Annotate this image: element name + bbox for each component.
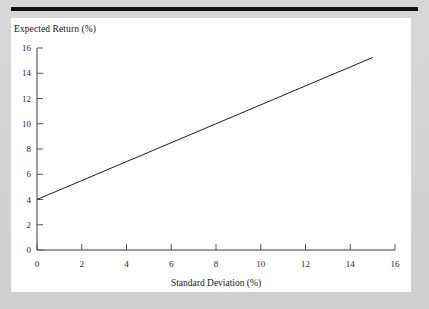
- x-tick-label: 12: [301, 259, 310, 269]
- figure-page: Expected Return (%): [0, 0, 429, 309]
- y-tick-label: 14: [22, 68, 32, 78]
- x-tick-label: 10: [256, 259, 266, 269]
- x-tick-label: 16: [391, 259, 401, 269]
- y-tick-label: 10: [22, 119, 32, 129]
- y-tick-labels: 0 2 4 6 8 10 12 14 16: [22, 43, 32, 255]
- axis-lines: [37, 48, 395, 250]
- y-tick-label: 6: [27, 169, 32, 179]
- x-tick-label: 4: [124, 259, 129, 269]
- x-tick-label: 2: [80, 259, 85, 269]
- y-tick-marks: [37, 48, 43, 250]
- y-tick-label: 12: [22, 94, 31, 104]
- x-tick-label: 14: [346, 259, 356, 269]
- x-tick-labels: 0 2 4 6 8 10 12 14 16: [35, 259, 400, 269]
- top-divider-rule: [11, 7, 418, 11]
- x-tick-label: 6: [169, 259, 174, 269]
- y-tick-label: 4: [27, 195, 32, 205]
- y-tick-label: 8: [27, 144, 32, 154]
- chart-panel: Expected Return (%): [11, 18, 411, 292]
- y-tick-label: 2: [27, 220, 32, 230]
- x-tick-marks: [37, 244, 395, 250]
- chart-plot-area: 0 2 4 6 8 10 12 14 16 0 2 4 6 8 10 12 14…: [11, 18, 411, 292]
- y-tick-label: 16: [22, 43, 32, 53]
- y-tick-label: 0: [27, 245, 32, 255]
- x-tick-label: 8: [214, 259, 219, 269]
- x-axis-title: Standard Deviation (%): [171, 278, 261, 289]
- series-line-capital-market-line: [37, 57, 373, 199]
- x-tick-label: 0: [35, 259, 40, 269]
